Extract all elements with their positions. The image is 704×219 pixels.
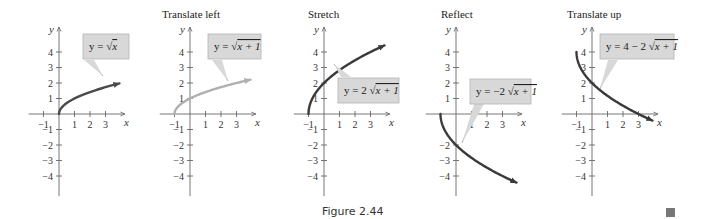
equation-label: y = 2 √x + 1 bbox=[344, 84, 399, 96]
end-of-example-square-icon bbox=[666, 208, 675, 217]
x-axis-label: x bbox=[388, 116, 394, 128]
equation-label: y = √x bbox=[89, 40, 117, 52]
y-tick-label: 2 bbox=[445, 78, 450, 89]
y-tick-label: −4 bbox=[173, 171, 184, 182]
x-axis-label: x bbox=[520, 116, 526, 128]
y-tick-label: 4 bbox=[581, 47, 586, 58]
y-tick-label: −2 bbox=[439, 140, 450, 151]
y-tick-label: 1 bbox=[48, 93, 53, 104]
y-tick-label: 3 bbox=[313, 62, 318, 73]
panel-title-stretch: Stretch bbox=[308, 8, 339, 20]
y-tick-label: −2 bbox=[307, 140, 318, 151]
x-axis-label: x bbox=[656, 116, 662, 128]
equation-label: y = −2 √x + 1 bbox=[476, 85, 537, 97]
y-tick-label: 1 bbox=[581, 93, 586, 104]
y-tick-label: 4 bbox=[445, 47, 450, 58]
x-tick-label: 2 bbox=[485, 119, 490, 130]
function-curve bbox=[441, 114, 517, 183]
panel-1: xy−11234321−1−2−3−4y = √x bbox=[29, 23, 129, 196]
y-tick-label: −1 bbox=[575, 124, 586, 135]
function-curve bbox=[59, 83, 119, 114]
x-tick-label: 1 bbox=[605, 119, 610, 130]
equation-label: y = √x + 1 bbox=[214, 40, 261, 52]
x-tick-label: 2 bbox=[621, 119, 626, 130]
panel-5: xy−11234321−1−2−3−4y = 4 − 2 √x + 1 bbox=[562, 23, 678, 196]
figure-2-44: xy−11234321−1−2−3−4y = √xxy−11234321−1−2… bbox=[0, 0, 704, 219]
x-axis-label: x bbox=[123, 116, 129, 128]
x-tick-label: 1 bbox=[337, 119, 342, 130]
x-tick-label: 3 bbox=[368, 119, 373, 130]
y-tick-label: 1 bbox=[445, 93, 450, 104]
y-axis-label: y bbox=[581, 23, 587, 35]
x-tick-label: 3 bbox=[234, 119, 239, 130]
y-tick-label: −3 bbox=[439, 155, 450, 166]
y-tick-label: 3 bbox=[445, 62, 450, 73]
y-tick-label: −4 bbox=[42, 171, 53, 182]
figure-caption: Figure 2.44 bbox=[322, 205, 384, 218]
y-tick-label: 2 bbox=[313, 78, 318, 89]
y-tick-label: 3 bbox=[179, 62, 184, 73]
equation-label: y = 4 − 2 √x + 1 bbox=[606, 40, 678, 52]
function-curve bbox=[175, 80, 251, 114]
y-tick-label: 4 bbox=[179, 47, 184, 58]
y-tick-label: 3 bbox=[48, 62, 53, 73]
y-tick-label: 2 bbox=[48, 78, 53, 89]
y-tick-label: −4 bbox=[575, 171, 586, 182]
y-tick-label: −3 bbox=[307, 155, 318, 166]
y-tick-label: −3 bbox=[575, 155, 586, 166]
y-tick-label: −1 bbox=[173, 124, 184, 135]
panel-3: xy−11234321−1−2−3−4y = 2 √x + 1 bbox=[294, 23, 399, 196]
x-tick-label: 1 bbox=[203, 119, 208, 130]
y-axis-label: y bbox=[48, 23, 54, 35]
y-tick-label: −1 bbox=[42, 124, 53, 135]
panel-title-translate-left: Translate left bbox=[162, 8, 220, 20]
x-tick-label: 3 bbox=[103, 119, 108, 130]
y-axis-label: y bbox=[445, 23, 451, 35]
panel-title-reflect: Reflect bbox=[441, 8, 473, 20]
x-tick-label: 3 bbox=[500, 119, 505, 130]
x-axis-label: x bbox=[254, 116, 260, 128]
y-tick-label: −4 bbox=[439, 171, 450, 182]
y-tick-label: −1 bbox=[307, 124, 318, 135]
panel-4: xy1234321−2−3−4y = −2 √x + 1 bbox=[426, 23, 537, 196]
panel-title-translate-up: Translate up bbox=[567, 8, 621, 20]
y-tick-label: −2 bbox=[42, 140, 53, 151]
y-tick-label: 4 bbox=[313, 47, 318, 58]
y-tick-label: 2 bbox=[581, 78, 586, 89]
y-axis-label: y bbox=[313, 23, 319, 35]
x-tick-label: 1 bbox=[72, 119, 77, 130]
y-tick-label: −2 bbox=[173, 140, 184, 151]
y-tick-label: −3 bbox=[42, 155, 53, 166]
y-tick-label: −2 bbox=[575, 140, 586, 151]
panel-2: xy−11234321−1−2−3−4y = √x + 1 bbox=[160, 23, 261, 196]
y-tick-label: −4 bbox=[307, 171, 318, 182]
y-tick-label: 2 bbox=[179, 78, 184, 89]
x-tick-label: 2 bbox=[88, 119, 93, 130]
y-tick-label: −3 bbox=[173, 155, 184, 166]
y-axis-label: y bbox=[179, 23, 185, 35]
x-tick-label: 2 bbox=[353, 119, 358, 130]
x-tick-label: 3 bbox=[636, 119, 641, 130]
x-tick-label: 2 bbox=[219, 119, 224, 130]
y-tick-label: 4 bbox=[48, 47, 53, 58]
